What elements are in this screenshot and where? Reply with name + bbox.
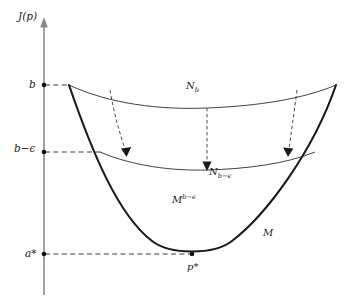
flow-arrow-center <box>202 108 211 171</box>
tick-dot-b-minus-eps <box>42 150 47 155</box>
tick-label-a-star: a* <box>25 248 37 259</box>
manifold-curve-M <box>69 85 336 252</box>
curve-label-Nb: Nb <box>186 81 199 94</box>
flow-arrowhead-right-icon <box>283 148 293 157</box>
region-label-sublevel-superscript: b−ϵ <box>182 193 195 201</box>
y-axis-arrowhead-icon <box>40 17 48 28</box>
y-axis-label: J(p) <box>18 11 37 22</box>
guide-lines-group <box>45 85 193 254</box>
region-label-sublevel-base: M <box>172 194 182 205</box>
tick-label-b-minus-eps: b−ϵ <box>14 143 35 154</box>
figure-root: J(p) b b−ϵ a* Nb Nb−ϵ Mb−ϵ M p* <box>0 0 356 301</box>
curve-label-Nbe-subscript: b−ϵ <box>218 172 231 180</box>
region-label-sublevel-set: Mb−ϵ <box>172 194 196 205</box>
flow-arrowhead-left-icon <box>121 147 131 157</box>
diagram-canvas <box>0 0 356 301</box>
curve-label-Nb-base: N <box>186 80 195 91</box>
curve-label-Nbe: Nb−ϵ <box>209 167 231 180</box>
tick-label-b: b <box>29 79 36 90</box>
curve-label-Nb-subscript: b <box>195 86 199 94</box>
tick-dot-b <box>42 83 47 88</box>
tick-dot-a-star <box>42 252 47 257</box>
critical-point-label: p* <box>187 262 198 272</box>
curve-label-Nbe-base: N <box>209 166 218 177</box>
critical-point-marker <box>190 252 195 257</box>
manifold-label-M: M <box>263 228 273 238</box>
